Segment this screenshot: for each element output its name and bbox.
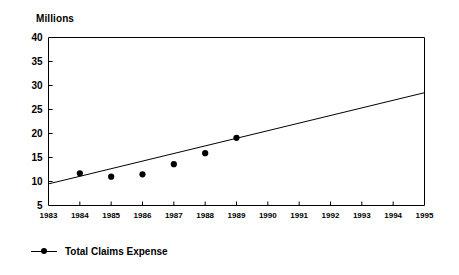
y-tick-label: 20	[31, 128, 43, 139]
data-point-marker	[233, 135, 239, 141]
x-tick-label: 1985	[102, 211, 120, 220]
y-tick-label: 25	[31, 104, 43, 115]
x-tick-label: 1984	[71, 211, 89, 220]
x-axis-ticks: 1983198419851986198719881989199019911992…	[40, 202, 434, 220]
x-tick-label: 1990	[259, 211, 277, 220]
chart-legend: Total Claims Expense	[31, 244, 168, 258]
data-point-marker	[77, 170, 83, 176]
y-tick-label: 35	[31, 56, 43, 67]
chart-container: Millions 510152025303540 198319841985198…	[0, 0, 459, 275]
x-tick-label: 1991	[290, 211, 308, 220]
data-point-marker	[108, 174, 114, 180]
x-tick-label: 1989	[228, 211, 246, 220]
data-point-marker	[202, 150, 208, 156]
x-tick-label: 1988	[196, 211, 214, 220]
x-tick-label: 1994	[384, 211, 402, 220]
plot-frame	[49, 38, 425, 206]
data-point-marker	[139, 171, 145, 177]
y-tick-label: 15	[31, 152, 43, 163]
y-tick-label: 10	[31, 176, 43, 187]
x-tick-label: 1986	[134, 211, 152, 220]
y-tick-label: 30	[31, 80, 43, 91]
chart-plot-area: 510152025303540 198319841985198619871988…	[0, 0, 459, 275]
x-tick-label: 1995	[416, 211, 434, 220]
y-tick-label: 40	[31, 32, 43, 43]
legend-item-label: Total Claims Expense	[65, 246, 168, 257]
y-tick-label: 5	[37, 200, 43, 211]
x-tick-label: 1983	[40, 211, 58, 220]
x-tick-label: 1987	[165, 211, 183, 220]
legend-symbol-icon	[31, 245, 57, 257]
x-tick-label: 1993	[353, 211, 371, 220]
data-point-marker	[171, 161, 177, 167]
x-tick-label: 1992	[322, 211, 340, 220]
